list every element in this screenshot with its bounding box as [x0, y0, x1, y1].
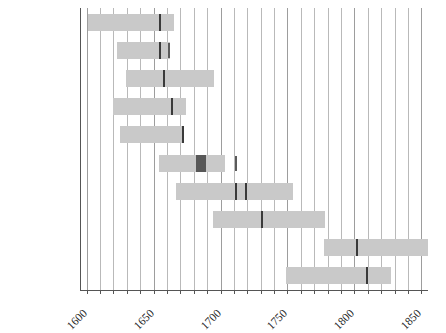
timeline-row: Gauss — [80, 234, 428, 262]
x-tick-label: 1850 — [399, 307, 424, 332]
timeline-row: Graunt — [80, 93, 428, 121]
lifespan-bar — [126, 70, 214, 87]
lifespan-bar — [120, 126, 183, 143]
posthumous-marker — [168, 43, 170, 58]
event-marker — [159, 42, 161, 59]
event-marker — [356, 239, 358, 256]
x-tick-label: 1650 — [131, 307, 156, 332]
timeline-row: de Moivre — [80, 177, 428, 205]
lifespan-bar — [324, 239, 428, 256]
x-tick-label: 1750 — [265, 307, 290, 332]
timeline-row: J. Bernouilli — [80, 149, 428, 177]
highlight-block — [196, 155, 205, 172]
lifespan-bar — [113, 98, 185, 115]
event-marker — [261, 211, 263, 228]
timeline-row: Pascal — [80, 36, 428, 64]
event-marker — [159, 14, 161, 31]
event-marker — [235, 183, 237, 200]
event-marker — [366, 267, 368, 284]
x-tick-label: 1700 — [198, 307, 223, 332]
event-marker — [182, 126, 184, 143]
x-axis-line — [80, 290, 428, 291]
lifespan-bar — [213, 211, 325, 228]
posthumous-marker — [235, 156, 237, 171]
timeline-row: de Witt — [80, 121, 428, 149]
timeline-row: Huygens — [80, 64, 428, 92]
lifespan-bar — [286, 267, 390, 284]
timeline-row: Fermat — [80, 8, 428, 36]
lifespan-bar — [159, 155, 225, 172]
lifespan-bar — [117, 42, 169, 59]
plot-area: FermatPascalHuygensGrauntde WittJ. Berno… — [80, 8, 428, 290]
event-marker — [163, 70, 165, 87]
x-tick-label: 1600 — [64, 307, 89, 332]
x-axis-tick-labels: 160016501700175018001850 — [80, 292, 428, 333]
event-marker — [245, 183, 247, 200]
event-marker — [171, 98, 173, 115]
x-tick-label: 1800 — [332, 307, 357, 332]
timeline-row: Laplace — [80, 262, 428, 290]
timeline-chart: FermatPascalHuygensGrauntde WittJ. Berno… — [0, 0, 446, 333]
timeline-row: Voltaire — [80, 205, 428, 233]
